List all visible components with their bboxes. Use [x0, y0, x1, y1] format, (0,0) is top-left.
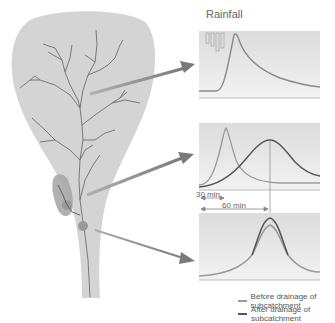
rainfall-hydrograph-panel — [199, 31, 320, 98]
outlet-hydrograph-panel — [199, 213, 320, 280]
rainfall-label: Rainfall — [206, 8, 243, 20]
arrow-to-outlet-panel — [95, 230, 195, 264]
subcatchment-hydrograph-panel — [199, 123, 320, 190]
legend-swatch-after — [238, 313, 247, 315]
legend-label-after: After drainage of subcatchment — [251, 305, 335, 323]
legend-swatch-before — [238, 300, 247, 302]
outlet-point — [78, 221, 88, 231]
catchment-basin — [12, 11, 155, 298]
legend-item-after: After drainage of subcatchment — [238, 305, 335, 323]
diagram-canvas — [0, 0, 335, 323]
time-30-label: 30 min — [196, 190, 220, 199]
time-60-label: 60 min — [222, 201, 246, 210]
